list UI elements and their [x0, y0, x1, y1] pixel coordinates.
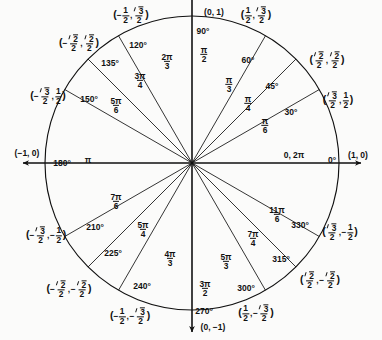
coord-150: (−32,12): [30, 87, 65, 106]
point-0-1: (0, 1): [204, 8, 224, 17]
rad-5pi-3: 5π3: [219, 253, 233, 271]
spoke-120deg: [119, 36, 193, 163]
rad-pi-3: π3: [224, 76, 233, 94]
angle-180: 180°: [53, 159, 71, 168]
deg-30: 30°: [285, 108, 298, 117]
rad-7pi-6: 7π6: [109, 193, 123, 211]
point-neg1-0: (−1, 0): [15, 149, 40, 158]
coord-315: (22,−22): [300, 271, 340, 290]
deg-300: 300°: [237, 284, 255, 293]
rad-11pi-6: 11π6: [268, 206, 286, 224]
spoke-240deg: [119, 163, 193, 290]
rad-pi-4: π4: [243, 95, 252, 113]
coord-330: (32,−12): [322, 223, 357, 242]
rad-pi-6: π6: [260, 117, 269, 135]
deg-150: 150°: [80, 95, 98, 104]
deg-210: 210°: [86, 223, 104, 232]
rad-7pi-4: 7π4: [246, 230, 260, 248]
deg-135: 135°: [101, 59, 119, 68]
coord-300: (12,−32): [238, 304, 273, 323]
radian-pi: π: [85, 156, 92, 165]
rad-4pi-3: 4π3: [163, 250, 177, 268]
spoke-210deg: [65, 163, 192, 237]
deg-225: 225°: [104, 249, 122, 258]
coord-45: (22,22): [310, 51, 345, 70]
point-0-neg1: (0, −1): [201, 323, 226, 332]
rad-5pi-4: 5π4: [136, 221, 150, 239]
angle-90: 90°: [197, 27, 210, 36]
point-1-0: (1, 0): [348, 151, 368, 160]
coord-120: (−12,32): [113, 6, 148, 25]
coord-210: (−32,−12): [26, 226, 66, 245]
deg-45: 45°: [266, 82, 279, 91]
rad-5pi-6: 5π6: [109, 97, 123, 115]
coord-135: (−22,22): [59, 34, 99, 53]
rad-pi-2: π2: [199, 46, 208, 64]
coord-60: (12,32): [241, 6, 271, 25]
coord-30: (32,12): [323, 91, 353, 110]
coord-240: (−12,−32): [110, 307, 150, 326]
coord-225: (−22,−22): [47, 280, 92, 299]
rad-3pi-2: 3π2: [198, 280, 212, 298]
angle-270: 270°: [195, 307, 213, 316]
rad-3pi-4: 3π4: [133, 72, 147, 90]
deg-60: 60°: [242, 56, 255, 65]
unit-circle-diagram: (0, 1)(1, 0)(−1, 0)(0, −1)90°270°0°180°0…: [0, 0, 382, 340]
deg-315: 315°: [272, 255, 290, 264]
rad-2pi-3: 2π3: [160, 53, 174, 71]
deg-330: 330°: [291, 221, 309, 230]
spoke-300deg: [192, 163, 266, 290]
deg-240: 240°: [133, 282, 151, 291]
deg-120: 120°: [129, 41, 147, 50]
angle-0: 0°: [328, 156, 336, 165]
radian-0-2pi: 0, 2π: [284, 151, 305, 160]
